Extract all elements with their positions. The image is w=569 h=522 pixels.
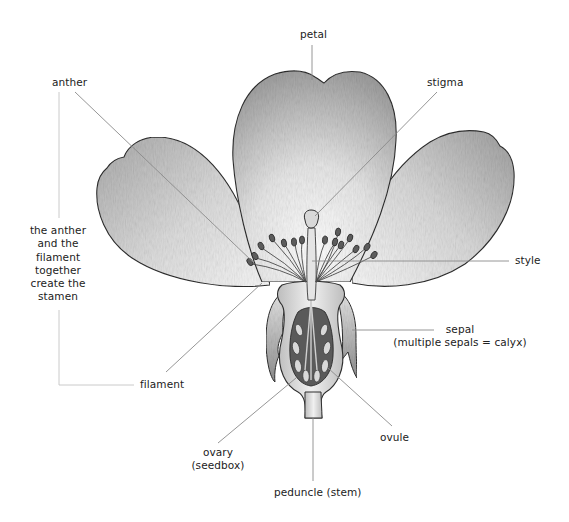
label-sepal: sepal xyxy=(385,323,535,336)
label-style: style xyxy=(515,254,541,267)
stamen-note-line: filament xyxy=(20,251,96,264)
stigma xyxy=(304,210,318,228)
label-stigma: stigma xyxy=(427,76,463,89)
label-filament: filament xyxy=(140,378,184,391)
stamen-note: the anther and the filament together cre… xyxy=(20,224,96,304)
label-anther: anther xyxy=(52,76,87,89)
filament-leader xyxy=(166,283,262,372)
stamen-note-line: create the xyxy=(20,277,96,290)
ovary-leader xyxy=(218,378,296,443)
label-petal: petal xyxy=(300,28,327,41)
label-ovary-group: ovary (seedbox) xyxy=(180,446,256,473)
label-ovary-note: (seedbox) xyxy=(180,459,256,472)
label-ovary: ovary xyxy=(180,446,256,459)
stamen-note-line: and the xyxy=(20,237,96,250)
ovule-leader xyxy=(328,368,392,426)
label-peduncle: peduncle (stem) xyxy=(274,486,362,499)
stamen-note-line: stamen xyxy=(20,290,96,303)
label-sepal-group: sepal (multiple sepals = calyx) xyxy=(385,323,535,350)
label-sepal-note: (multiple sepals = calyx) xyxy=(385,336,535,349)
label-ovule: ovule xyxy=(380,431,409,444)
stamen-note-line: together xyxy=(20,264,96,277)
style xyxy=(307,228,316,300)
stem xyxy=(305,392,322,418)
stamen-note-line: the anther xyxy=(20,224,96,237)
